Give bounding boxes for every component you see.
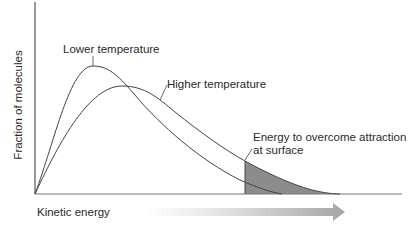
energy-pointer — [245, 149, 252, 160]
y-axis-label: Fraction of molecules — [12, 50, 24, 159]
energy-distribution-chart — [0, 0, 417, 235]
higher-temp-pointer — [160, 85, 167, 100]
higher-temperature-label: Higher temperature — [167, 78, 266, 91]
kinetic-energy-arrow — [145, 203, 345, 221]
x-axis-label: Kinetic energy — [37, 206, 110, 219]
energy-threshold-label-line2: at surface — [253, 144, 304, 157]
shaded-threshold-region — [245, 161, 340, 194]
energy-threshold-label-line1: Energy to overcome attraction — [253, 131, 406, 144]
lower-temperature-label: Lower temperature — [63, 43, 160, 56]
